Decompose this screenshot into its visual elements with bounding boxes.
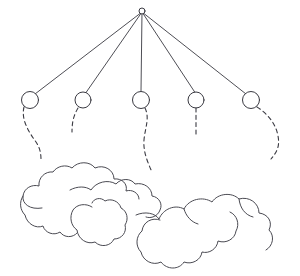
node-circle-4: [188, 92, 204, 108]
node-circle-1: [22, 92, 39, 109]
line-drawing: [0, 0, 300, 276]
node-circle-3: [133, 92, 150, 109]
apex-hub-circle: [139, 8, 145, 14]
node-circle-2: [75, 92, 91, 108]
drawing-canvas: [0, 0, 300, 276]
canvas-background: [0, 0, 300, 276]
node-circle-5: [243, 92, 260, 109]
